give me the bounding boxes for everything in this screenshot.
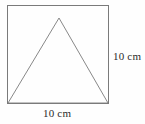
- geometry-figure: 10 cm 10 cm: [0, 0, 145, 124]
- inscribed-triangle: [8, 18, 108, 103]
- figure-canvas: [0, 0, 145, 124]
- dimension-label-right: 10 cm: [113, 50, 141, 62]
- dimension-label-bottom: 10 cm: [43, 107, 71, 119]
